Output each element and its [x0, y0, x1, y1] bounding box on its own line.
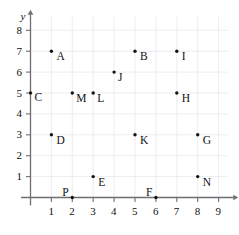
y-axis-label: y [21, 11, 26, 22]
point-label-k: K [140, 135, 148, 147]
data-point-j [112, 70, 115, 73]
x-tick-label: 5 [132, 206, 138, 217]
point-label-e: E [98, 177, 105, 189]
data-point-l [92, 91, 95, 94]
x-axis-arrowhead [233, 195, 238, 201]
coordinate-plane-figure: 123456789 12345678 ABCDEFGHIJKLMNP x y [0, 0, 239, 235]
point-label-d: D [56, 135, 64, 147]
y-tick-label: 8 [17, 25, 23, 36]
point-label-a: A [56, 51, 64, 63]
x-tick-label: 1 [48, 206, 54, 217]
x-tick-label: 4 [111, 206, 117, 217]
point-label-l: L [97, 93, 104, 105]
data-point-f [154, 196, 157, 199]
y-tick-label: 2 [17, 150, 23, 161]
data-point-e [92, 175, 95, 178]
point-label-p: P [62, 187, 68, 199]
y-tick-label: 4 [17, 108, 23, 119]
y-tick-label: 5 [17, 88, 23, 99]
data-point-b [133, 50, 136, 53]
y-tick-label: 1 [17, 171, 23, 182]
data-point-p [71, 196, 74, 199]
x-tick-label: 7 [174, 206, 180, 217]
point-label-m: M [76, 93, 86, 105]
grid-lines [31, 17, 229, 198]
point-label-h: H [182, 93, 190, 105]
x-tick-label: 9 [216, 206, 222, 217]
point-label-n: N [203, 177, 211, 189]
x-tick-label: 2 [69, 206, 75, 217]
y-axis-arrowhead [28, 10, 34, 15]
data-point-i [175, 50, 178, 53]
scatter-plot-canvas [0, 0, 239, 235]
data-point-d [50, 133, 53, 136]
data-point-a [50, 50, 53, 53]
x-tick-label: 6 [153, 206, 159, 217]
data-point-k [133, 133, 136, 136]
x-tick-label: 8 [195, 206, 201, 217]
data-point-h [175, 91, 178, 94]
point-label-c: C [35, 92, 43, 104]
y-tick-label: 3 [17, 129, 23, 140]
point-label-g: G [203, 135, 211, 147]
data-point-m [71, 91, 74, 94]
point-label-f: F [146, 187, 152, 199]
y-tick-label: 7 [17, 46, 23, 57]
y-tick-label: 6 [17, 67, 23, 78]
data-point-c [29, 91, 32, 94]
data-point-n [196, 175, 199, 178]
data-point-g [196, 133, 199, 136]
point-label-b: B [140, 51, 148, 63]
point-label-j: J [118, 72, 122, 84]
point-label-i: I [182, 51, 186, 63]
x-tick-label: 3 [90, 206, 96, 217]
